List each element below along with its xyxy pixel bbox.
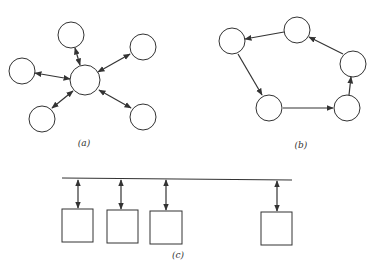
- ring-node-3: [340, 51, 366, 77]
- star-node-lower-right: [130, 104, 156, 130]
- panel-a-label: (a): [78, 138, 91, 148]
- star-node-upper-right: [130, 34, 156, 60]
- star-link-upper-right: [98, 54, 130, 72]
- star-link-lower-right: [99, 90, 131, 108]
- star-node-lower-left: [29, 106, 55, 132]
- bus-station-1: [62, 209, 93, 242]
- star-node-top: [58, 22, 84, 48]
- bus-station-4: [261, 212, 292, 245]
- ring-link-2: [238, 54, 262, 95]
- star-hub-node: [70, 65, 100, 95]
- bus-line: [62, 178, 292, 180]
- ring-node-4: [334, 95, 360, 121]
- bus-topology: (c): [62, 178, 292, 260]
- panel-c-label: (c): [172, 250, 185, 260]
- star-topology: (a): [9, 22, 156, 148]
- ring-link-1: [245, 32, 284, 39]
- bus-station-2: [107, 210, 138, 243]
- star-link-top: [75, 48, 80, 65]
- ring-link-5: [309, 37, 343, 54]
- star-node-left: [9, 58, 35, 84]
- ring-node-5: [256, 95, 282, 121]
- panel-b-label: (b): [295, 140, 308, 150]
- star-link-left: [35, 73, 70, 79]
- ring-link-4: [349, 77, 351, 95]
- star-link-lower-left: [52, 91, 73, 108]
- ring-topology: (b): [219, 17, 366, 150]
- ring-node-2: [284, 17, 310, 43]
- network-topologies-diagram: (a) (b) (c): [0, 0, 375, 265]
- bus-station-3: [150, 211, 182, 244]
- ring-node-1: [219, 28, 245, 54]
